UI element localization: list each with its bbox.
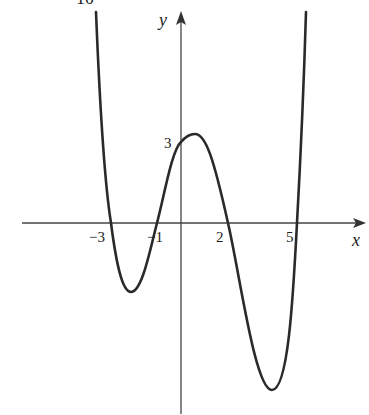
function-graph: 10 y x −3 −1 2 5 3 [0,0,369,415]
tick-label-5: 5 [286,229,294,245]
tick-label-neg1: −1 [147,229,163,245]
function-curve [96,12,306,390]
tick-label-neg3: −3 [89,229,105,245]
tick-label-y3: 3 [164,135,172,151]
top-cut-label: 10 [76,0,94,8]
x-axis-label: x [351,230,360,250]
y-axis-label: y [157,10,167,30]
tick-label-2: 2 [216,229,224,245]
